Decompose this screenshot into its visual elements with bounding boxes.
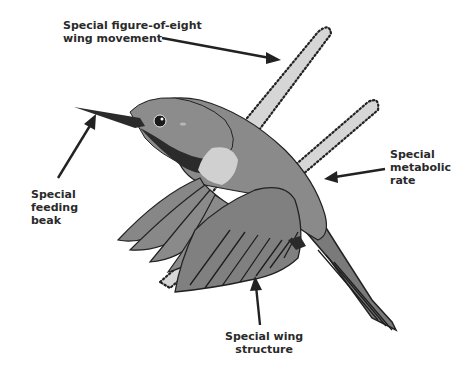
- label-line: Special wing: [225, 330, 303, 343]
- label-feeding-beak: Special feeding beak: [31, 188, 78, 227]
- label-wing-movement: Special figure-of-eight wing movement: [63, 19, 202, 45]
- label-wing-structure: Special wing structure: [225, 330, 303, 356]
- label-line: wing movement: [63, 32, 202, 45]
- arrow-feeding-beak: [58, 124, 91, 178]
- label-line: Special: [31, 188, 78, 201]
- label-line: beak: [31, 214, 78, 227]
- arrow-wing-structure: [256, 286, 260, 325]
- label-metabolic-rate: Special metabolic rate: [390, 148, 451, 187]
- bird-eye: [154, 115, 166, 127]
- label-line: rate: [390, 174, 451, 187]
- label-line: feeding: [31, 201, 78, 214]
- label-line: Special: [390, 148, 451, 161]
- label-line: structure: [225, 343, 303, 356]
- arrow-metabolic-rate: [335, 169, 385, 177]
- label-line: metabolic: [390, 161, 451, 174]
- label-line: Special figure-of-eight: [63, 19, 202, 32]
